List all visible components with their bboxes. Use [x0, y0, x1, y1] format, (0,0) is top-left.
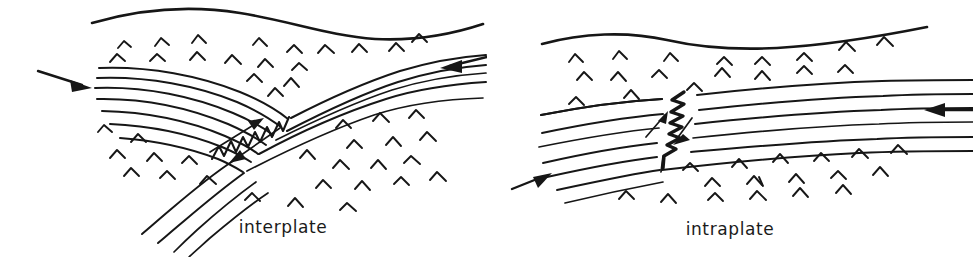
- ground-surface-line: [92, 9, 483, 39]
- panel-intraplate: intraplate: [487, 0, 973, 257]
- convergence-arrow-left: [38, 71, 92, 92]
- right-slab-layers: [247, 55, 486, 171]
- compression-arrow-right: [924, 103, 973, 117]
- ground-surface-line: [542, 27, 927, 49]
- caption-intraplate: intraplate: [686, 219, 775, 239]
- slab-lower-limb-layers: [142, 161, 268, 257]
- plate-top-boundary: [541, 99, 662, 115]
- mantle-chevron-group-lower: [98, 110, 446, 211]
- mantle-chevron-group-upper: [110, 34, 427, 96]
- tectonic-settings-figure: interplate: [0, 0, 973, 257]
- interplate-drawing: interplate: [0, 0, 487, 257]
- compression-arrow-left: [512, 173, 552, 189]
- mantle-chevron-group-lower: [619, 145, 907, 203]
- caption-interplate: interplate: [239, 217, 328, 237]
- fault-zigzag-icon: [661, 92, 684, 172]
- plate-layers-left: [539, 99, 663, 203]
- intraplate-drawing: intraplate: [487, 0, 973, 257]
- panel-interplate: interplate: [0, 0, 487, 257]
